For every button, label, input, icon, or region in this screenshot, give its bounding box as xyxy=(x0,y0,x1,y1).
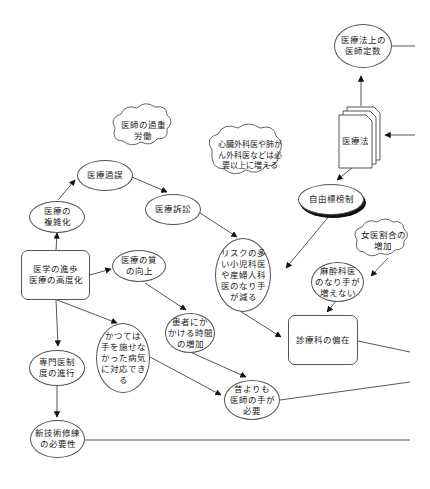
node-label: 医学の進歩 医療の高度化 xyxy=(29,264,83,286)
node-label: 医療の 複雑化 xyxy=(44,206,71,228)
node-mukashi-yori[interactable]: 昔よりも 医師の手が 必要 xyxy=(224,380,280,420)
node-iryou-fukuzatsu[interactable]: 医療の 複雑化 xyxy=(29,201,85,233)
node-igaku-shinpo[interactable]: 医学の進歩 医療の高度化 xyxy=(21,250,90,300)
node-risk-shounika[interactable]: リスクの多 い小児科医 や産婦人科 医のなり手 が減る xyxy=(215,238,271,312)
node-shingijutsu[interactable]: 新技術修練 の必要性 xyxy=(30,420,85,458)
node-label: 患者にか かける時間 の増加 xyxy=(168,317,213,350)
node-iryouhou[interactable]: 医療法 xyxy=(339,121,372,161)
node-label: 麻酔科医 のなり手が 増えない xyxy=(315,266,360,299)
node-label: 診療科の偏在 xyxy=(296,335,350,346)
node-label: 医療法 xyxy=(342,136,369,147)
node-iryou-soshou[interactable]: 医療訴訟 xyxy=(145,194,201,225)
node-shinzou-geka[interactable]: 心臓外科医や肺が ん外科医などは必 要以上に増える xyxy=(210,130,290,182)
node-label: 昔よりも 医師の手が 必要 xyxy=(230,384,275,417)
node-joi-wariai[interactable]: 女医割合の 増加 xyxy=(357,226,409,256)
node-label: 医療の質 の向上 xyxy=(121,255,157,277)
node-label: 医療法上の 医師定数 xyxy=(341,35,386,57)
node-iryou-kago[interactable]: 医療過誤 xyxy=(77,160,133,191)
node-iryou-shitsu[interactable]: 医療の質 の向上 xyxy=(112,250,166,282)
node-senmon-ishi[interactable]: 専門医制 度の進行 xyxy=(29,350,85,386)
node-label: 医師の過重 労働 xyxy=(121,120,166,142)
node-label: 医療訴訟 xyxy=(155,204,191,215)
node-label: 専門医制 度の進行 xyxy=(39,357,75,379)
node-label: 医療過誤 xyxy=(87,170,123,181)
node-kanja-jikan[interactable]: 患者にか かける時間 の増加 xyxy=(165,313,215,353)
node-masuika[interactable]: 麻酔科医 のなり手が 増えない xyxy=(311,262,364,302)
node-label: 新技術修練 の必要性 xyxy=(35,428,80,450)
node-shinryouka-henzai[interactable]: 診療科の偏在 xyxy=(288,315,358,365)
node-label: かつては 手を施せな かった病気 に対応でき る xyxy=(101,331,146,386)
node-label: 心臓外科医や肺が ん外科医などは必 要以上に増える xyxy=(218,140,282,172)
node-katsute[interactable]: かつては 手を施せな かった病気 に対応でき る xyxy=(96,323,150,393)
node-jiyuu-hyoubou[interactable]: 自由標榜制 xyxy=(298,184,364,215)
node-iryouhou-ishi-teisuu[interactable]: 医療法上の 医師定数 xyxy=(334,24,392,68)
node-label: 自由標榜制 xyxy=(309,194,354,205)
node-label: 女医割合の 増加 xyxy=(361,230,406,252)
node-ishi-kajou-roudou[interactable]: 医師の過重 労働 xyxy=(113,113,173,149)
node-label: リスクの多 い小児科医 や産婦人科 医のなり手 が減る xyxy=(221,248,266,303)
